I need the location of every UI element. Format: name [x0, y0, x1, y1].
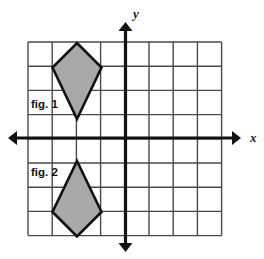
y-axis-label: y	[131, 6, 139, 21]
diagram-canvas: x y fig. 1fig. 2	[0, 0, 264, 259]
coordinate-plane-diagram: x y fig. 1fig. 2	[0, 0, 264, 259]
fig-1-kite-label: fig. 1	[31, 98, 58, 110]
canvas-background	[0, 0, 264, 259]
fig-2-kite-label: fig. 2	[31, 166, 58, 178]
x-axis-label: x	[249, 130, 257, 145]
